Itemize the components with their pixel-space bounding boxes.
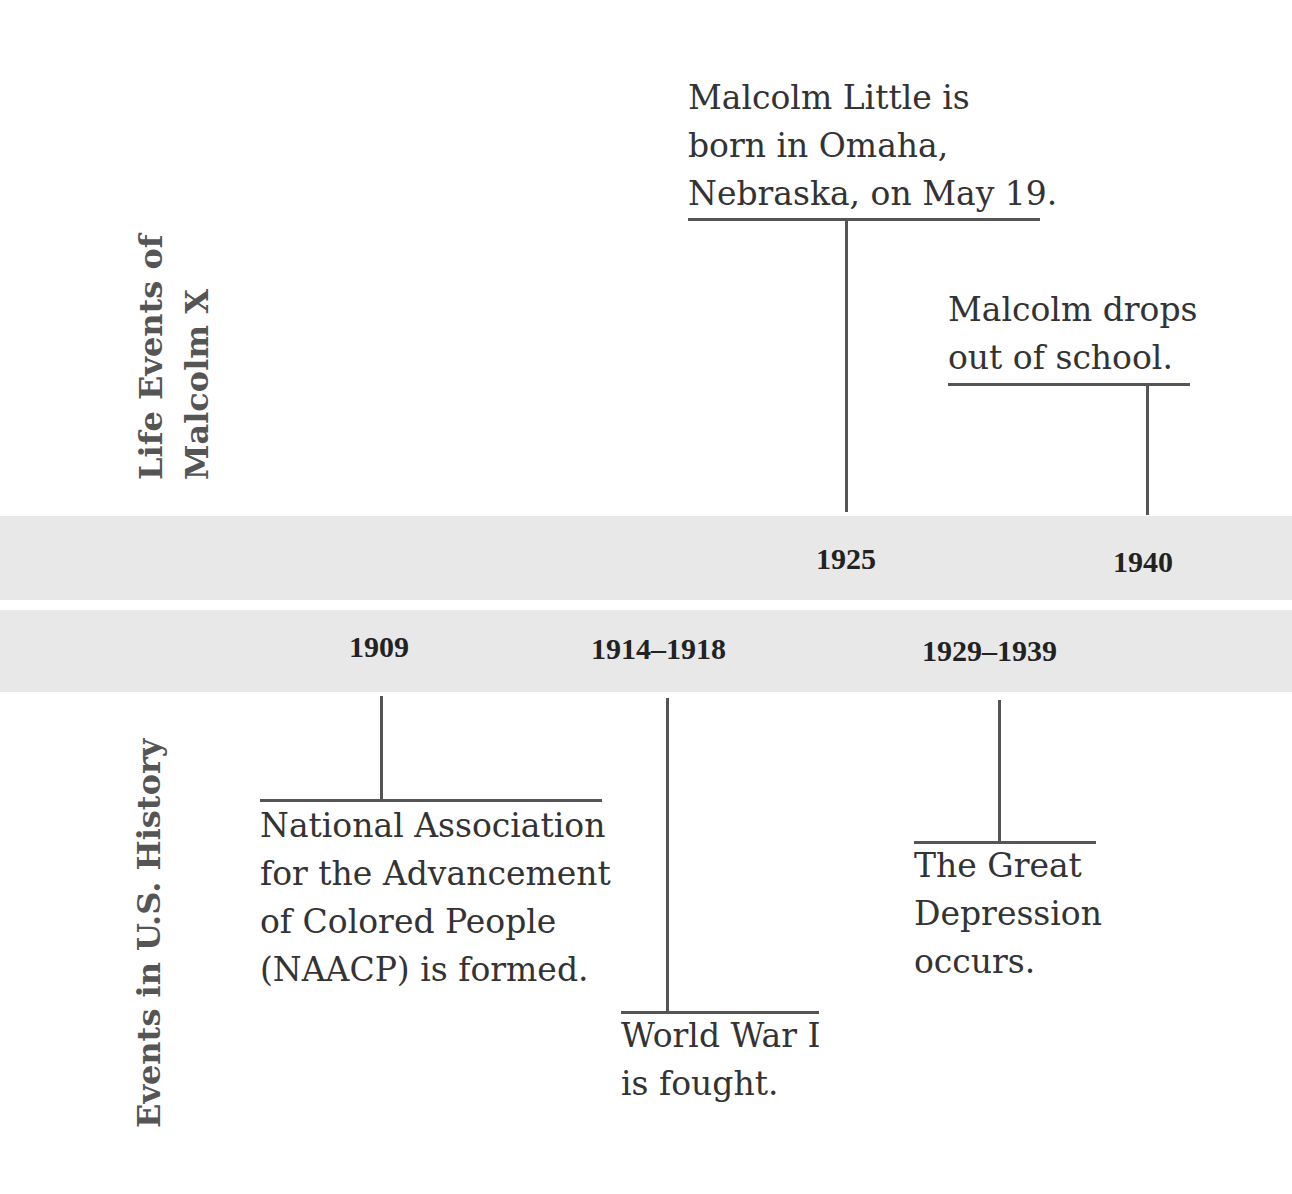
year-1909: 1909 [349,630,409,664]
event-text-line: for the Advancement [260,850,611,898]
event-malcolm-drops-out: Malcolm drops out of school. [948,286,1198,382]
connector-vertical [845,220,848,512]
event-text-line: Malcolm Little is [688,74,1057,122]
life-events-label: Life Events of Malcolm X [128,234,220,480]
year-1914-1918: 1914–1918 [591,632,726,666]
event-text-line: born in Omaha, [688,122,1057,170]
event-text-line: National Association [260,802,611,850]
year-1940: 1940 [1113,545,1173,579]
connector-vertical [998,700,1001,842]
life-events-label-line2: Malcolm X [174,234,220,480]
year-1929-1939: 1929–1939 [922,634,1057,668]
event-world-war-one: World War I is fought. [621,1012,821,1108]
connector-horizontal [948,383,1190,386]
event-text-line: Malcolm drops [948,286,1198,334]
event-text-line: Nebraska, on May 19. [688,170,1057,218]
event-great-depression: The Great Depression occurs. [914,842,1102,986]
us-history-label: Events in U.S. History [126,739,172,1128]
life-events-label-line1: Life Events of [128,234,174,480]
year-1925: 1925 [816,542,876,576]
malcolm-timeline-band [0,516,1292,600]
event-text-line: is fought. [621,1060,821,1108]
connector-vertical [1146,385,1149,515]
event-text-line: The Great [914,842,1102,890]
event-text-line: Depression [914,890,1102,938]
event-text-line: occurs. [914,938,1102,986]
event-text-line: out of school. [948,334,1198,382]
event-text-line: of Colored People [260,898,611,946]
event-text-line: World War I [621,1012,821,1060]
connector-horizontal [688,218,1040,221]
us-history-label-text: Events in U.S. History [126,739,172,1128]
connector-vertical [380,696,383,800]
event-text-line: (NAACP) is formed. [260,946,611,994]
event-naacp-formed: National Association for the Advancement… [260,802,611,994]
connector-vertical [666,698,669,1012]
event-malcolm-born: Malcolm Little is born in Omaha, Nebrask… [688,74,1057,218]
